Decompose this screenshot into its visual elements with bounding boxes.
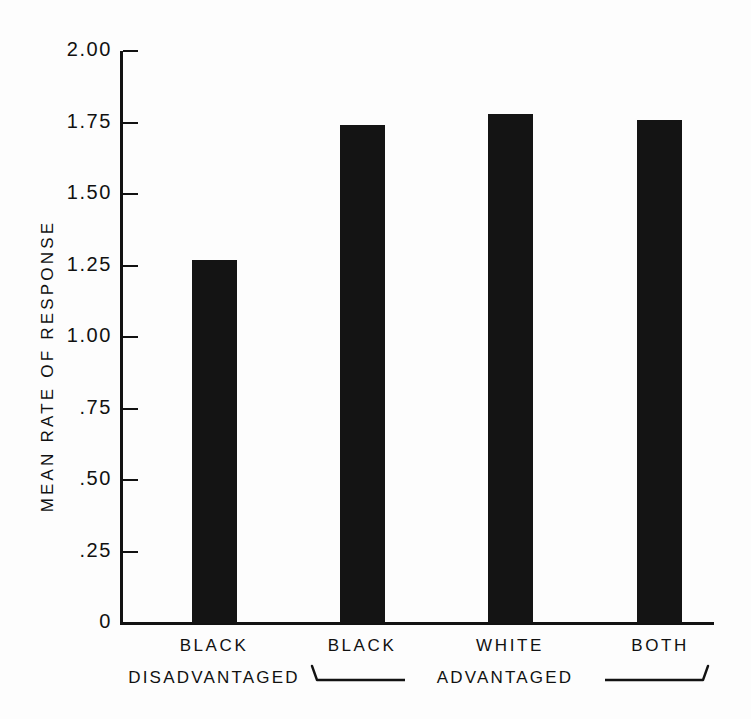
y-tick-label: 1.00 (20, 324, 112, 347)
x-label-bar-4: BOTH (565, 636, 751, 656)
y-tick-label: .75 (20, 396, 112, 419)
y-tick-mark (123, 408, 138, 410)
bar-1 (192, 260, 237, 623)
y-tick-label: .50 (20, 467, 112, 490)
bar-chart-figure: MEAN RATE OF RESPONSE 2.001.751.501.251.… (0, 0, 751, 719)
y-tick-mark (123, 551, 138, 553)
y-tick-mark (123, 193, 138, 195)
bar-2 (340, 125, 385, 623)
y-tick-label: 1.75 (20, 110, 112, 133)
group-label-advantaged: ADVANTAGED (405, 668, 605, 688)
y-tick-mark (123, 336, 138, 338)
y-tick-mark (123, 622, 138, 624)
bar-4 (637, 120, 682, 623)
y-tick-label: 1.25 (20, 253, 112, 276)
y-tick-label: .25 (20, 539, 112, 562)
y-tick-label: 0 (20, 610, 112, 633)
y-tick-mark (123, 265, 138, 267)
y-tick-mark (123, 50, 138, 52)
y-tick-mark (123, 122, 138, 124)
y-tick-label: 2.00 (20, 38, 112, 61)
y-tick-mark (123, 479, 138, 481)
bar-3 (488, 114, 533, 623)
y-tick-label: 1.50 (20, 181, 112, 204)
